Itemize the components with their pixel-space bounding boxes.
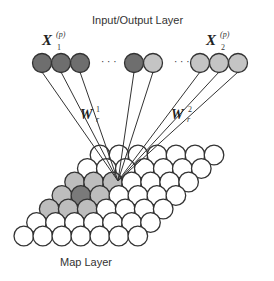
input-node: [33, 54, 52, 73]
ellipsis-right: · · ·: [174, 56, 190, 67]
input-node: [229, 54, 248, 73]
w2-symbol: W: [171, 107, 183, 122]
input-output-layer-title: Input/Output Layer: [92, 14, 183, 26]
input-node: [210, 54, 229, 73]
ellipsis-left: · · ·: [101, 56, 117, 67]
input-output-nodes: [33, 54, 248, 73]
map-node: [33, 226, 53, 246]
input-node: [52, 54, 71, 73]
input-node: [144, 54, 163, 73]
w2-label: W: [171, 107, 183, 123]
w1-sub: r: [96, 115, 99, 124]
x2-sup: (p): [220, 30, 229, 39]
w2-sup: 2: [188, 105, 192, 114]
w1-symbol: W: [80, 107, 92, 122]
x1-sub: 1: [57, 43, 61, 52]
x2-sub: 2: [221, 43, 225, 52]
x2-symbol: X: [206, 32, 216, 48]
input-node: [125, 54, 144, 73]
map-node: [128, 226, 148, 246]
w2-sub: r: [187, 115, 190, 124]
map-node: [52, 226, 72, 246]
map-node: [14, 226, 34, 246]
w1-sup: 1: [96, 105, 100, 114]
x1-symbol: X: [42, 32, 52, 48]
map-node: [90, 226, 110, 246]
map-node: [71, 226, 91, 246]
x1-sup: (p): [56, 30, 65, 39]
map-layer-grid: [14, 145, 224, 246]
input-node: [191, 54, 210, 73]
x1-label: X: [42, 32, 52, 49]
x2-label: X: [206, 32, 216, 49]
input-node: [71, 54, 90, 73]
map-node: [109, 226, 129, 246]
map-layer-title: Map Layer: [60, 256, 112, 268]
w1-label: W: [80, 107, 92, 123]
